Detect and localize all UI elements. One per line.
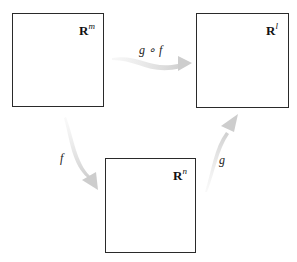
space-box-rn: Rn — [105, 158, 196, 253]
space-box-rm: Rm — [12, 13, 104, 107]
arrow-g-compose-f — [112, 56, 192, 71]
arrow-f — [64, 117, 98, 190]
map-label-g-compose-f: g ∘ f — [139, 43, 162, 58]
space-label-rm: Rm — [79, 23, 95, 39]
space-box-rl: Rl — [196, 13, 289, 108]
map-label-g: g — [219, 153, 225, 168]
space-label-rn: Rn — [173, 168, 187, 184]
map-label-f: f — [60, 151, 63, 166]
space-label-rl: Rl — [266, 23, 278, 39]
